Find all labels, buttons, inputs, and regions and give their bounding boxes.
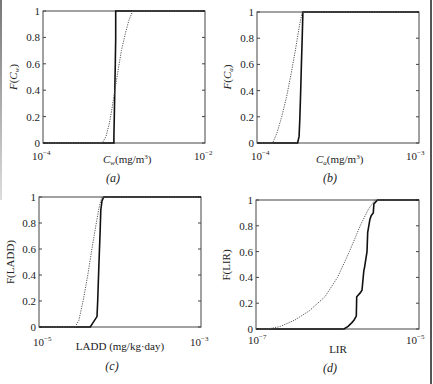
solid-cdf-curve — [256, 200, 419, 329]
y-tick-label: 0 — [31, 321, 37, 333]
y-tick-label: 1 — [31, 191, 37, 203]
y-tick-label: 0.8 — [240, 32, 254, 44]
y-axis-label-a: F(Cw) — [7, 64, 21, 91]
y-tick-label: 0.6 — [26, 58, 40, 70]
y-tick-label: 0.2 — [22, 295, 36, 307]
plot-frame-a — [43, 11, 205, 143]
y-tick-label: 0 — [35, 137, 41, 149]
panel-caption-a: (a) — [106, 171, 120, 185]
dotted-cdf-curve — [257, 12, 419, 143]
y-tick-label: 0.8 — [26, 31, 40, 43]
curves-b — [257, 12, 419, 143]
plot-frame-b — [257, 12, 419, 143]
y-tick-label: 1 — [249, 6, 255, 18]
y-tick-label: 1 — [248, 194, 254, 206]
x-axis-label-c: LADD (mg/kg·day) — [76, 340, 165, 353]
x-min-label-d: 10−7 — [248, 333, 267, 346]
x-axis-label-b: Ca(mg/m3) — [316, 153, 364, 167]
y-tick-label: 1 — [35, 5, 41, 17]
y-tick-label: 0.4 — [26, 84, 40, 96]
panel-a: 00.20.40.60.81 F(Cw) 10−4 10−2 Cw(mg/m3)… — [7, 5, 213, 185]
y-tick-label: 0 — [249, 137, 255, 149]
panel-c: 00.20.40.60.81 F(LADD) 10−5 10−3 LADD (m… — [4, 191, 209, 373]
y-tick-label: 0.6 — [22, 243, 36, 255]
plot-frame-d — [256, 200, 419, 329]
x-min-label-b: 10−4 — [251, 149, 270, 162]
figure: 00.20.40.60.81 F(Cw) 10−4 10−2 Cw(mg/m3)… — [0, 0, 433, 384]
x-min-label-c: 10−5 — [33, 335, 52, 348]
dotted-cdf-curve — [39, 197, 201, 327]
solid-cdf-curve — [257, 12, 419, 143]
y-tick-label: 0.8 — [22, 217, 36, 229]
y-tick-label: 0.2 — [240, 111, 254, 123]
x-max-label-a: 10−2 — [194, 149, 213, 162]
x-max-label-c: 10−3 — [190, 335, 209, 348]
y-axis-label-b: F(Ca) — [221, 64, 235, 90]
y-ticks-c: 00.20.40.60.81 — [22, 191, 201, 333]
solid-cdf-curve — [39, 197, 201, 327]
y-tick-label: 0.4 — [240, 85, 254, 97]
plot-frame-c — [39, 197, 201, 327]
panel-caption-b: (b) — [323, 171, 337, 185]
panel-caption-c: (c) — [105, 359, 118, 373]
x-axis-label-d: LIR — [329, 343, 347, 355]
dotted-cdf-curve — [256, 200, 419, 329]
curves-a — [43, 11, 205, 143]
y-tick-label: 0.2 — [26, 111, 40, 123]
x-max-label-b: 10−3 — [406, 149, 425, 162]
y-ticks-d: 00.20.40.60.81 — [239, 194, 419, 335]
y-tick-label: 0.8 — [239, 220, 253, 232]
y-tick-label: 0.2 — [239, 297, 253, 309]
y-ticks-b: 00.20.40.60.81 — [240, 6, 419, 149]
solid-cdf-curve — [43, 11, 205, 143]
y-axis-label-d: F(LIR) — [220, 249, 233, 281]
x-max-label-d: 10−5 — [406, 333, 425, 346]
y-tick-label: 0.6 — [240, 58, 254, 70]
y-tick-label: 0.6 — [239, 246, 253, 258]
y-tick-label: 0.4 — [22, 269, 36, 281]
y-tick-label: 0.4 — [239, 271, 253, 283]
panel-caption-d: (d) — [323, 361, 337, 375]
curves-c — [39, 197, 201, 327]
dotted-cdf-curve — [43, 11, 205, 143]
y-axis-label-c: F(LADD) — [4, 240, 17, 284]
x-axis-label-a: Cw(mg/m3) — [103, 153, 152, 167]
curves-d — [256, 200, 419, 329]
panel-d: 00.20.40.60.81 F(LIR) 10−7 10−5 LIR (d) — [220, 194, 425, 375]
panel-b: 00.20.40.60.81 F(Ca) 10−4 10−3 Ca(mg/m3)… — [221, 6, 425, 185]
x-min-label-a: 10−4 — [32, 149, 51, 162]
